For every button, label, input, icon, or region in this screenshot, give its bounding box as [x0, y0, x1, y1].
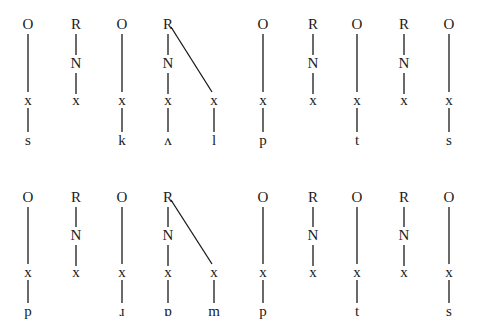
skeletal-slot: x: [259, 264, 267, 280]
onset-node: O: [352, 16, 363, 32]
skeletal-slot: x: [353, 92, 361, 108]
onset-node: O: [117, 16, 128, 32]
nucleus-node: N: [163, 227, 174, 243]
rime-node: R: [399, 16, 409, 32]
nucleus-node: N: [308, 227, 319, 243]
segment-label: s: [446, 303, 452, 319]
onset-node: O: [258, 16, 269, 32]
onset-node: O: [352, 189, 363, 205]
skeletal-slot: x: [400, 92, 408, 108]
skeletal-slot: x: [309, 92, 317, 108]
segment-label: p: [259, 132, 267, 148]
skeletal-slot: x: [353, 264, 361, 280]
segment-label: p: [24, 303, 32, 319]
coda-skeletal-slot: x: [210, 92, 218, 108]
rime-node: R: [308, 189, 318, 205]
skeletal-slot: x: [164, 92, 172, 108]
onset-node: O: [444, 16, 455, 32]
skeletal-slot: x: [259, 92, 267, 108]
rime-node: R: [399, 189, 409, 205]
rime-node: R: [71, 16, 81, 32]
skeletal-slot: x: [72, 264, 80, 280]
skeletal-slot: x: [24, 92, 32, 108]
skeletal-slot: x: [400, 264, 408, 280]
skeletal-slot: x: [24, 264, 32, 280]
nucleus-node: N: [399, 55, 410, 71]
onset-node: O: [117, 189, 128, 205]
segment-label: ɒ: [164, 303, 172, 319]
onset-node: O: [23, 189, 34, 205]
rime-coda-branch: [171, 200, 212, 264]
nucleus-node: N: [308, 55, 319, 71]
onset-node: O: [444, 189, 455, 205]
segment-label: p: [259, 303, 267, 319]
rime-node: R: [308, 16, 318, 32]
segment-label: s: [446, 132, 452, 148]
skeletal-slot: x: [445, 264, 453, 280]
coda-skeletal-slot: x: [210, 264, 218, 280]
skeletal-slot: x: [118, 264, 126, 280]
nucleus-node: N: [71, 227, 82, 243]
nucleus-node: N: [399, 227, 410, 243]
skeletal-slot: x: [164, 264, 172, 280]
segment-label: k: [118, 132, 126, 148]
skeletal-slot: x: [118, 92, 126, 108]
rime-node: R: [71, 189, 81, 205]
skeletal-slot: x: [72, 92, 80, 108]
onset-node: O: [23, 16, 34, 32]
skeletal-slot: x: [445, 92, 453, 108]
segment-label: t: [355, 303, 360, 319]
nucleus-node: N: [163, 55, 174, 71]
coda-segment-label: m: [208, 303, 220, 319]
nucleus-node: N: [71, 55, 82, 71]
rime-node: R: [163, 16, 173, 32]
syllable-structure-diagram: OxsRNxOxkRNxʌxlOxpRNxOxtRNxOxsOxpRNxOxɹR…: [0, 0, 480, 333]
segment-label: s: [25, 132, 31, 148]
segment-label: ʌ: [164, 132, 172, 148]
onset-node: O: [258, 189, 269, 205]
segment-label: t: [355, 132, 360, 148]
skeletal-slot: x: [309, 264, 317, 280]
rime-node: R: [163, 189, 173, 205]
rime-coda-branch: [171, 27, 212, 92]
segment-label: ɹ: [120, 303, 125, 319]
coda-segment-label: l: [212, 132, 216, 148]
